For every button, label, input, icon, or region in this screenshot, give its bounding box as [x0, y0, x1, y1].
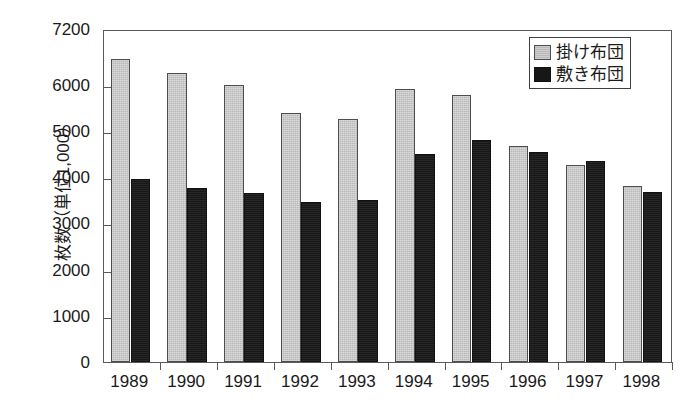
bar-1991-series-0	[224, 85, 244, 363]
x-axis-tick	[558, 362, 559, 370]
black-swatch-icon	[534, 67, 551, 82]
legend-item-label: 掛け布団	[556, 43, 624, 62]
y-tick-label: 7200	[28, 21, 90, 38]
x-tick-label: 1989	[105, 372, 153, 392]
y-axis-tick-labels: 01000200030004000500060007200	[28, 0, 90, 412]
bar-1992-series-0	[281, 113, 301, 362]
x-tick-label: 1991	[219, 372, 267, 392]
x-axis-tick	[160, 362, 161, 370]
bar-1992-series-1	[301, 202, 321, 362]
y-tick-label: 2000	[28, 262, 90, 279]
bar-1994-series-1	[415, 154, 435, 362]
legend-item-label: 敷き布団	[556, 65, 624, 84]
legend-item-1: 敷き布団	[534, 63, 624, 85]
x-axis-tick-labels: 1989199019911992199319941995199619971998	[103, 372, 672, 398]
legend-item-0: 掛け布団	[534, 41, 624, 63]
y-tick-label: 0	[28, 354, 90, 371]
y-tick-label: 4000	[28, 169, 90, 186]
x-axis-tick	[388, 362, 389, 370]
x-tick-label: 1990	[162, 372, 210, 392]
bar-1996-series-1	[529, 152, 549, 362]
x-axis-tick	[672, 362, 673, 370]
x-tick-label: 1998	[617, 372, 665, 392]
y-tick-label: 5000	[28, 123, 90, 140]
gray-swatch-icon	[534, 45, 551, 60]
bar-1991-series-1	[244, 193, 264, 362]
x-axis-tick	[445, 362, 446, 370]
bar-chart: 枚数（単位1,000） 0100020003000400050006000720…	[0, 0, 691, 412]
x-tick-label: 1995	[447, 372, 495, 392]
bar-1994-series-0	[395, 89, 415, 362]
bar-1997-series-0	[566, 165, 586, 362]
bar-1996-series-0	[509, 146, 529, 362]
bar-1990-series-1	[187, 188, 207, 362]
x-tick-label: 1996	[504, 372, 552, 392]
bar-1993-series-0	[338, 119, 358, 362]
x-axis-tick	[274, 362, 275, 370]
bar-1995-series-0	[452, 95, 472, 362]
bar-1990-series-0	[167, 73, 187, 362]
y-tick-label: 3000	[28, 215, 90, 232]
x-tick-label: 1994	[390, 372, 438, 392]
bar-1998-series-1	[643, 192, 663, 362]
y-tick-label: 1000	[28, 308, 90, 325]
x-axis-tick	[501, 362, 502, 370]
bar-1989-series-1	[131, 179, 151, 362]
x-axis-tick	[615, 362, 616, 370]
x-axis-tick	[331, 362, 332, 370]
bar-1997-series-1	[586, 161, 606, 362]
x-tick-label: 1993	[333, 372, 381, 392]
x-axis-tick	[217, 362, 218, 370]
x-tick-label: 1992	[276, 372, 324, 392]
bar-1998-series-0	[623, 186, 643, 362]
y-tick-label: 6000	[28, 77, 90, 94]
bar-1995-series-1	[472, 140, 492, 362]
bar-1993-series-1	[358, 200, 378, 362]
chart-legend: 掛け布団敷き布団	[529, 37, 631, 89]
bar-1989-series-0	[111, 59, 131, 362]
x-tick-label: 1997	[560, 372, 608, 392]
